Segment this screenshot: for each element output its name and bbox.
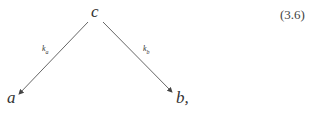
node-c: c [91,2,99,22]
edge-c-to-b [103,22,172,92]
node-a: a [7,88,16,108]
edge-c-to-a [19,22,88,94]
edge-label-ka: ka [42,44,49,55]
edge-label-kb-sub: b [147,49,150,55]
arrows-layer [0,0,315,114]
equation-number: (3.6) [280,7,305,23]
edge-label-ka-sub: a [46,49,49,55]
node-b: b, [176,88,189,108]
edge-label-kb: kb [143,44,150,55]
